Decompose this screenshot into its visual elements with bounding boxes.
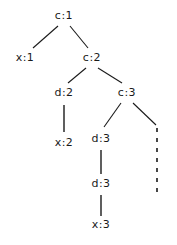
tree-node-d3-lower: d:3 [90, 178, 111, 190]
tree-node-c3: c:3 [117, 87, 137, 99]
edge-c3-to-d3 [104, 103, 121, 127]
tree-node-c2: c:2 [82, 52, 102, 64]
tree-node-x1: x:1 [15, 52, 36, 64]
tree-node-d2: d:2 [53, 87, 74, 99]
edge-c3-to-elided-subtree [133, 103, 156, 125]
edge-c2-to-d2 [68, 68, 86, 83]
edge-c1-to-x1 [33, 26, 58, 48]
edge-layer [0, 0, 177, 245]
tree-node-x2: x:2 [54, 137, 75, 149]
tree-node-c1: c:1 [54, 10, 74, 22]
edge-c1-to-c2 [70, 26, 88, 48]
tree-node-d3-upper: d:3 [90, 133, 111, 145]
tree-diagram: c:1 x:1 c:2 d:2 c:3 x:2 d:3 d:3 x:3 [0, 0, 177, 245]
edge-c2-to-c3 [98, 68, 122, 83]
tree-node-x3: x:3 [91, 219, 112, 231]
